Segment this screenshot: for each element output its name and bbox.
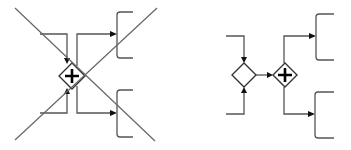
- output-flow-bottom: [77, 86, 110, 113]
- input-flow-top: [40, 34, 67, 58]
- output-flow-top: [284, 36, 309, 63]
- arrow-head-icon: [309, 33, 316, 39]
- activity-bracket-top: [117, 12, 133, 58]
- activity-bracket-top: [316, 14, 334, 60]
- input-flow-top: [226, 36, 244, 57]
- bpmn-gateway-diagram: [0, 0, 351, 150]
- output-flow-top: [77, 34, 110, 66]
- activity-bracket-bottom: [117, 90, 133, 137]
- arrow-head-icon: [308, 111, 315, 117]
- arrow-head-icon: [110, 31, 117, 37]
- output-flow-bottom: [284, 87, 308, 114]
- input-flow-bottom: [226, 93, 244, 114]
- exclusive-gateway: [232, 63, 256, 87]
- activity-bracket-bottom: [315, 92, 334, 138]
- right-diagram: [226, 14, 334, 138]
- arrow-head-icon: [110, 110, 117, 116]
- left-diagram: [15, 8, 157, 141]
